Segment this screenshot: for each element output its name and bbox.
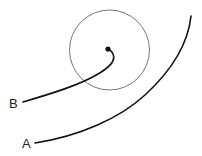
center-point [105,46,110,51]
diagram-canvas: B A [0,0,202,156]
curve-a [35,16,191,143]
label-b: B [9,96,18,111]
curve-b [23,49,114,102]
label-a: A [22,136,31,151]
